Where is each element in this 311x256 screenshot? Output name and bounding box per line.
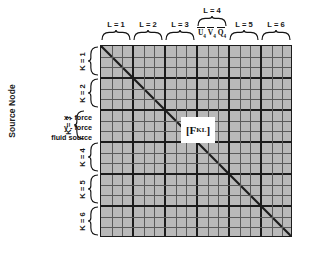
l4-detail-variables: U4V4Q4	[197, 27, 227, 39]
column-label-l4: L = 4	[196, 6, 228, 15]
row-brace-k6	[87, 206, 98, 236]
l4-variable-q: Q4	[218, 29, 226, 39]
column-label-l5: L = 5	[228, 20, 260, 29]
column-label-l3: L = 3	[164, 20, 196, 29]
grid-block-line-vertical	[228, 46, 230, 236]
matrix-center-label-sup: KL	[196, 126, 206, 134]
grid-cell-line-vertical	[282, 46, 283, 236]
column-label-l2: L = 2	[132, 20, 164, 29]
row-brace-k5	[87, 174, 98, 204]
grid-block-line-horizontal	[101, 205, 291, 207]
grid-cell-line-vertical	[272, 46, 273, 236]
row-brace-k1	[87, 46, 98, 76]
grid-cell-line-horizontal	[101, 163, 291, 164]
column-brace-l3	[165, 29, 195, 40]
l4-variable-v: V4	[208, 29, 216, 39]
grid-block-line-vertical	[260, 46, 262, 236]
k3-item-1: y - force	[20, 123, 92, 133]
column-label-l1: L = 1	[100, 20, 132, 29]
grid-cell-line-vertical	[218, 46, 219, 236]
column-brace-l2	[133, 29, 163, 40]
figure-root: Source Node L = 1L = 2L = 3L = 4L = 5L =…	[0, 0, 311, 256]
y-axis-title: Source Node	[7, 71, 17, 151]
matrix-center-label-bracket: ]	[206, 124, 210, 136]
column-label-l6: L = 6	[260, 20, 292, 29]
grid-cell-line-vertical	[240, 46, 241, 236]
column-brace-l6	[261, 29, 291, 40]
grid-cell-line-horizontal	[101, 227, 291, 228]
grid-cell-line-horizontal	[101, 153, 291, 154]
grid-cell-line-horizontal	[101, 185, 291, 186]
l4-variable-u: U4	[198, 29, 206, 39]
row-brace-k4	[87, 142, 98, 172]
column-brace-l1	[101, 29, 131, 40]
column-brace-l5	[229, 29, 259, 40]
grid-cell-line-horizontal	[101, 217, 291, 218]
grid-block-line-horizontal	[101, 173, 291, 175]
column-brace-l4	[197, 15, 227, 26]
grid-cell-line-vertical	[250, 46, 251, 236]
grid-cell-line-horizontal	[101, 195, 291, 196]
row-brace-k2	[87, 78, 98, 108]
k3-item-2: fluid source	[20, 133, 92, 143]
k3-detail-items: x - forcey - forcefluid source	[20, 113, 92, 144]
k3-item-0: x - force	[20, 113, 92, 123]
matrix-center-label: [FKL]	[181, 117, 215, 143]
matrix-center-label-text: [F	[186, 124, 196, 136]
